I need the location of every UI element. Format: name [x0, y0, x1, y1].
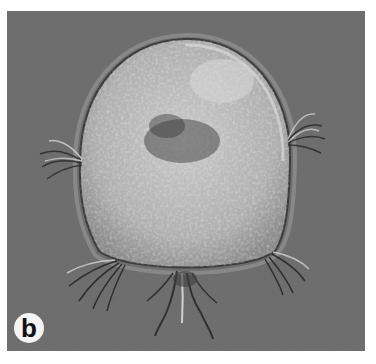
panel-label-text: b [21, 315, 37, 341]
micrograph-image [7, 11, 365, 351]
ciliate-cell-illustration [7, 11, 365, 351]
panel-label-badge: b [14, 313, 44, 343]
